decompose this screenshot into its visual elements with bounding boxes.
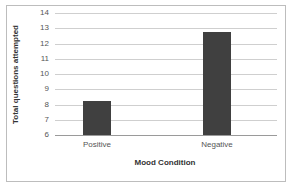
gridline [55,74,277,75]
plot-area: 67891011121314 [55,13,277,135]
gridline [55,28,277,29]
gridline [55,44,277,45]
x-tick-label: Positive [67,140,127,149]
gridline [55,135,277,136]
x-tick-label: Negative [187,140,247,149]
gridline [55,59,277,60]
gridline [55,13,277,14]
y-tick-label: 8 [33,101,49,109]
y-tick-label: 10 [33,70,49,78]
bar-positive [83,101,111,135]
y-tick-label: 12 [33,40,49,48]
y-axis-label: Total questions attempted [11,20,20,130]
y-tick-label: 11 [33,55,49,63]
y-tick-label: 7 [33,116,49,124]
y-tick-label: 6 [33,131,49,139]
y-tick-label: 13 [33,24,49,32]
y-tick-label: 9 [33,85,49,93]
y-tick-label: 14 [33,9,49,17]
gridline [55,89,277,90]
x-axis-label: Mood Condition [0,158,290,167]
bar-negative [203,32,231,135]
